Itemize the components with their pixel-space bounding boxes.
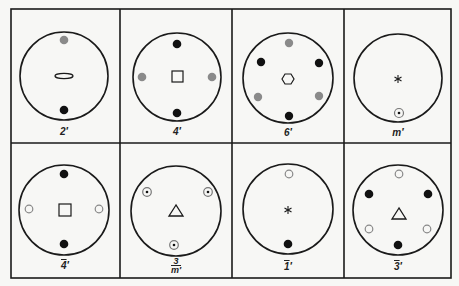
black-pole-dot [284, 240, 293, 249]
black-pole-dot [285, 112, 293, 120]
stereogram-m-prime [354, 34, 442, 122]
open-pole-circle [25, 205, 33, 213]
open-pole-circle [423, 225, 431, 233]
gray-pole-dot [315, 92, 323, 100]
label-3-bar-suffix: ′ [400, 261, 402, 272]
open-pole-circle [365, 225, 373, 233]
stereogram-figure: 2′ 4′ 6′ m′ 4′ 3 m′ 1′ 3′ [0, 0, 459, 286]
label-4-bar-suffix: ′ [67, 260, 69, 271]
label-3-bar-prime: 3′ [378, 262, 418, 272]
label-2-prime: 2′ [44, 127, 84, 137]
open-pole-circle [395, 170, 403, 178]
stereogram-3-bar-prime [353, 165, 443, 255]
label-1-bar-prime: 1′ [268, 262, 308, 272]
black-pole-dot [257, 58, 265, 66]
stereogram-4-bar-prime [19, 165, 109, 255]
black-pole-dot [60, 170, 69, 179]
coincident-pole-dot [207, 191, 210, 194]
sixfold-axis-icon [282, 74, 294, 84]
gray-pole-dot [208, 73, 217, 82]
black-pole-dot [394, 241, 403, 250]
stereogram-3-over-m-prime [131, 166, 221, 256]
open-pole-circle [285, 170, 293, 178]
threefold-axis-icon [169, 205, 183, 216]
stereogram-1-bar-prime [243, 164, 333, 254]
gray-pole-dot [138, 73, 147, 82]
label-1-bar-suffix: ′ [290, 261, 292, 272]
label-6-prime: 6′ [268, 128, 308, 138]
label-4-bar-prime: 4′ [45, 261, 85, 271]
black-pole-dot [60, 106, 69, 115]
gray-pole-dot [285, 39, 293, 47]
fourfold-axis-icon [59, 204, 71, 216]
threefold-axis-icon [392, 208, 406, 219]
label-4-prime: 4′ [157, 127, 197, 137]
black-pole-dot [173, 40, 182, 49]
asterisk-icon [395, 75, 402, 83]
stereogram-grid [0, 0, 459, 286]
label-3-over-m-denominator: m′ [171, 266, 181, 274]
gray-pole-dot [254, 93, 262, 101]
black-pole-dot [173, 109, 182, 118]
twofold-axis-icon [55, 73, 73, 78]
coincident-pole-dot [146, 191, 149, 194]
stereogram-2-prime [20, 32, 108, 120]
label-3-over-m-prime: 3 m′ [156, 257, 196, 275]
gray-pole-dot [60, 36, 69, 45]
black-pole-dot [60, 240, 69, 249]
fourfold-axis-icon [172, 71, 183, 82]
open-pole-circle [95, 205, 103, 213]
label-m-prime: m′ [378, 128, 418, 138]
coincident-pole-dot [173, 244, 176, 247]
primitive-circle [131, 166, 221, 256]
stereogram-4-prime [133, 33, 221, 121]
grid-frame [11, 9, 451, 278]
black-pole-dot [365, 190, 374, 199]
black-pole-dot [424, 190, 433, 199]
stereogram-6-prime [243, 33, 333, 123]
coincident-pole-dot [398, 112, 401, 115]
black-pole-dot [315, 59, 323, 67]
asterisk-icon [285, 206, 292, 214]
